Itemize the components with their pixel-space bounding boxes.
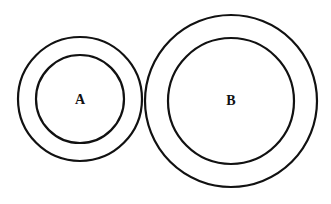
circle-group-a: A: [18, 37, 142, 161]
label-a: A: [75, 92, 86, 107]
label-b: B: [226, 93, 235, 108]
concentric-circles-diagram: A B: [0, 0, 331, 204]
circle-group-b: B: [145, 15, 317, 187]
